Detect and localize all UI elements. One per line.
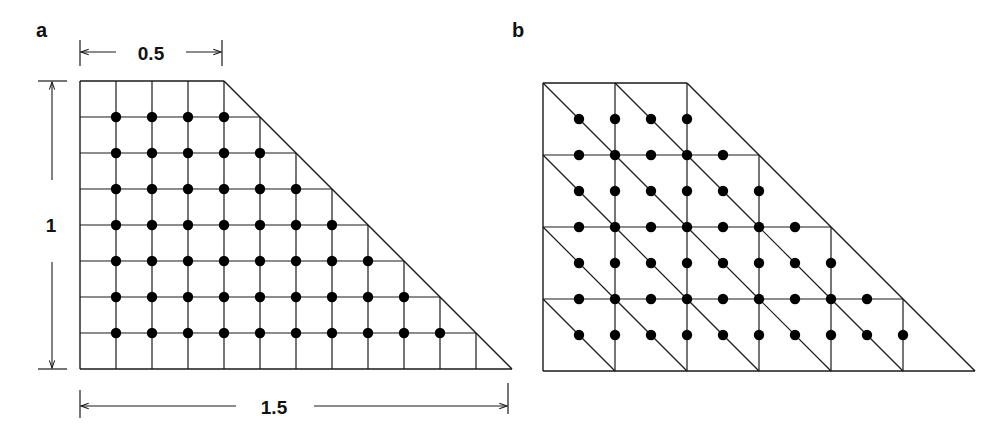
- node-dot: [682, 258, 692, 268]
- node-dot: [898, 330, 908, 340]
- node-dot: [111, 292, 121, 302]
- node-dot: [610, 150, 620, 160]
- node-dot: [862, 294, 872, 304]
- node-dot: [754, 294, 764, 304]
- node-dot: [111, 112, 121, 122]
- node-dot: [718, 330, 728, 340]
- node-dot: [291, 184, 301, 194]
- node-dot: [646, 186, 656, 196]
- node-dot: [183, 112, 193, 122]
- node-dot: [646, 222, 656, 232]
- node-dot: [682, 222, 692, 232]
- node-dot: [147, 148, 157, 158]
- node-dot: [147, 256, 157, 266]
- node-dot: [574, 222, 584, 232]
- node-dot: [790, 222, 800, 232]
- node-dot: [610, 114, 620, 124]
- node-dot: [327, 328, 337, 338]
- node-dot: [363, 292, 373, 302]
- node-dot: [610, 258, 620, 268]
- node-dot: [646, 114, 656, 124]
- dimension-bottom-width: 1.5: [80, 383, 508, 418]
- node-dot: [718, 150, 728, 160]
- node-dot: [219, 220, 229, 230]
- node-dot: [147, 220, 157, 230]
- node-dot: [183, 220, 193, 230]
- node-dot: [327, 256, 337, 266]
- node-dot: [255, 220, 265, 230]
- node-dot: [183, 184, 193, 194]
- node-dot: [327, 220, 337, 230]
- node-dot: [754, 186, 764, 196]
- node-dot: [219, 184, 229, 194]
- node-dot: [862, 330, 872, 340]
- node-dot: [826, 330, 836, 340]
- dimension-height: 1: [38, 81, 67, 369]
- node-dot: [111, 328, 121, 338]
- node-dot: [147, 112, 157, 122]
- node-dot: [718, 186, 728, 196]
- node-dot: [610, 294, 620, 304]
- node-dot: [327, 292, 337, 302]
- node-dot: [183, 148, 193, 158]
- node-dot: [682, 186, 692, 196]
- panel-b-label: b: [512, 19, 524, 41]
- node-dot: [574, 186, 584, 196]
- dimension-height-label: 1: [46, 215, 57, 236]
- node-dot: [826, 258, 836, 268]
- node-dot: [111, 220, 121, 230]
- node-dot: [291, 292, 301, 302]
- node-dot: [183, 256, 193, 266]
- node-dot: [399, 328, 409, 338]
- figure-canvas: a 0.5 1 1.5 b: [0, 0, 996, 430]
- node-dot: [718, 222, 728, 232]
- node-dot: [718, 294, 728, 304]
- node-dot: [790, 294, 800, 304]
- node-dot: [574, 330, 584, 340]
- node-dot: [754, 258, 764, 268]
- node-dot: [790, 258, 800, 268]
- node-dot: [610, 330, 620, 340]
- node-dot: [255, 328, 265, 338]
- node-dot: [255, 148, 265, 158]
- node-dot: [574, 294, 584, 304]
- node-dot: [111, 184, 121, 194]
- node-dot: [291, 328, 301, 338]
- node-dot: [291, 256, 301, 266]
- node-dot: [219, 148, 229, 158]
- node-dot: [147, 292, 157, 302]
- node-dot: [574, 114, 584, 124]
- node-dot: [363, 256, 373, 266]
- node-dot: [646, 258, 656, 268]
- node-dot: [111, 148, 121, 158]
- node-dot: [363, 328, 373, 338]
- dimension-top-width: 0.5: [80, 40, 222, 66]
- node-dot: [610, 222, 620, 232]
- node-dot: [291, 220, 301, 230]
- dimension-top-width-label: 0.5: [138, 43, 165, 64]
- node-dot: [111, 256, 121, 266]
- node-dot: [574, 150, 584, 160]
- node-dot: [646, 330, 656, 340]
- node-dot: [219, 292, 229, 302]
- node-dot: [219, 256, 229, 266]
- node-dot: [682, 114, 692, 124]
- node-dot: [682, 150, 692, 160]
- node-dot: [754, 330, 764, 340]
- node-dot: [790, 330, 800, 340]
- panel-a: a 0.5 1 1.5: [36, 19, 512, 418]
- dimension-bottom-width-label: 1.5: [261, 397, 288, 418]
- node-dot: [826, 294, 836, 304]
- node-dot: [147, 184, 157, 194]
- node-dot: [255, 292, 265, 302]
- node-dot: [255, 256, 265, 266]
- node-dot: [574, 258, 584, 268]
- node-dot: [646, 294, 656, 304]
- node-dot: [183, 328, 193, 338]
- node-dot: [219, 112, 229, 122]
- node-dot: [219, 328, 229, 338]
- node-dot: [399, 292, 409, 302]
- node-dot: [682, 294, 692, 304]
- node-dot: [183, 292, 193, 302]
- node-dot: [147, 328, 157, 338]
